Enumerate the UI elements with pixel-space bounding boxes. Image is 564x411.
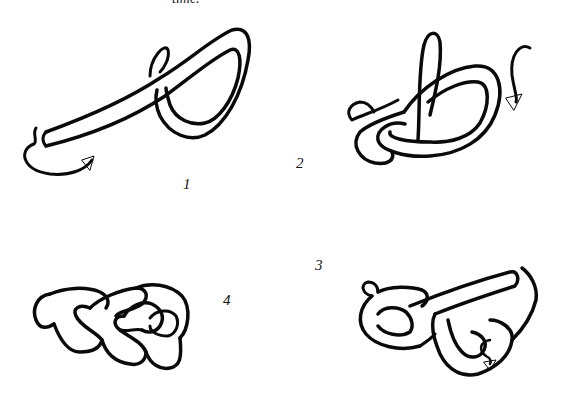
step-label-1: 1 xyxy=(183,176,191,193)
step-label-3: 3 xyxy=(315,257,323,274)
step-label-4: 4 xyxy=(223,292,231,309)
step-label-2: 2 xyxy=(296,155,304,172)
knot-step-3-illustration xyxy=(340,250,564,411)
knot-step-2-illustration xyxy=(300,20,564,200)
knot-step-1-illustration xyxy=(0,20,280,200)
knot-step-4-illustration xyxy=(20,280,240,390)
clipped-caption-text: time. xyxy=(172,0,200,7)
